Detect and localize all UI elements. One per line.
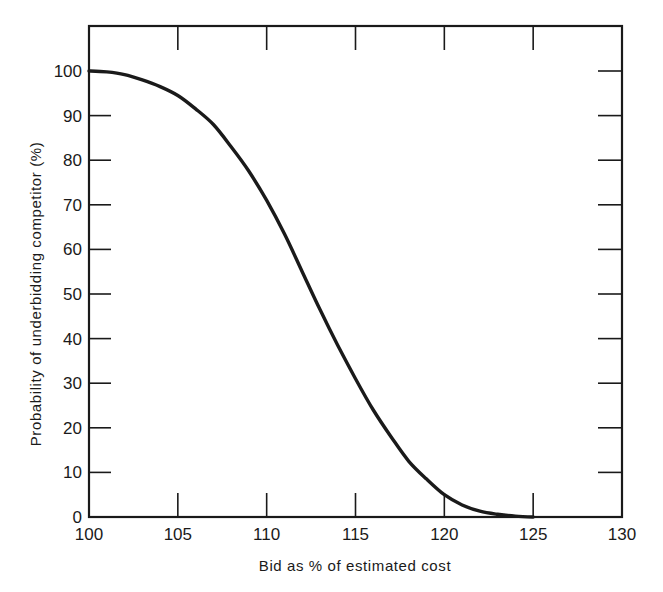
- y-tick-label: 10: [63, 463, 82, 482]
- y-tick-label: 0: [73, 508, 82, 527]
- x-tick-label: 115: [342, 525, 369, 544]
- y-tick-label: 30: [63, 374, 82, 393]
- y-axis-title: Probability of underbidding competitor (…: [27, 142, 44, 447]
- y-tick-label: 40: [63, 330, 82, 349]
- y-tick-label: 60: [63, 240, 82, 259]
- x-axis-ticks: 100105110115120125130: [75, 26, 636, 544]
- data-series: [89, 71, 533, 517]
- x-tick-label: 100: [75, 525, 103, 544]
- plot-frame: [89, 26, 622, 517]
- y-tick-label: 80: [63, 151, 82, 170]
- chart: 100105110115120125130 010203040506070809…: [0, 0, 663, 592]
- series-line: [89, 71, 533, 517]
- x-tick-label: 110: [253, 525, 280, 544]
- x-tick-label: 120: [430, 525, 458, 544]
- x-tick-label: 125: [519, 525, 547, 544]
- y-axis-ticks: 0102030405060708090100: [54, 62, 622, 527]
- y-tick-label: 70: [63, 196, 82, 215]
- x-tick-label: 130: [608, 525, 636, 544]
- y-tick-label: 100: [54, 62, 82, 81]
- chart-canvas: 100105110115120125130 010203040506070809…: [0, 0, 663, 592]
- x-axis-title: Bid as % of estimated cost: [259, 557, 452, 574]
- plot-border: [89, 26, 622, 517]
- y-tick-label: 90: [63, 107, 82, 126]
- y-tick-label: 20: [63, 419, 82, 438]
- y-tick-label: 50: [63, 285, 82, 304]
- x-tick-label: 105: [164, 525, 192, 544]
